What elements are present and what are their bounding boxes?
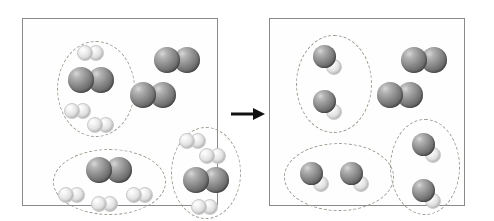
light-diatomic-molecule	[199, 148, 224, 162]
light-diatomic-molecule	[179, 133, 204, 147]
dark-atom	[183, 167, 209, 193]
light-diatomic-molecule	[87, 117, 112, 131]
reactant-box	[22, 18, 218, 206]
light-atom	[199, 148, 215, 164]
leftover-reactant-1	[401, 47, 447, 73]
dark-diatomic-molecule	[68, 67, 114, 93]
product-molecule	[340, 162, 370, 192]
light-atom	[191, 199, 207, 215]
product-molecule	[412, 179, 442, 209]
diagram-stage	[0, 0, 494, 221]
light-atom	[126, 187, 142, 203]
light-atom	[58, 187, 74, 203]
dark-atom	[68, 67, 94, 93]
dark-atom	[412, 179, 435, 202]
dark-diatomic-molecule	[86, 157, 132, 183]
dark-atom	[313, 90, 336, 113]
dark-atom	[412, 133, 435, 156]
light-atom	[179, 133, 195, 149]
light-atom	[77, 45, 93, 61]
product-molecule	[313, 45, 343, 75]
light-diatomic-molecule	[64, 103, 89, 117]
product-molecule	[313, 90, 343, 120]
light-atom	[91, 196, 107, 212]
dark-atom	[300, 162, 323, 185]
light-diatomic-molecule	[77, 45, 102, 59]
dark-atom	[340, 162, 363, 185]
light-diatomic-molecule	[191, 199, 216, 213]
reaction-arrow	[231, 106, 265, 118]
light-diatomic-molecule	[91, 196, 116, 210]
dark-atom	[377, 82, 403, 108]
product-molecule	[300, 162, 330, 192]
dark-atom	[401, 47, 427, 73]
dark-atom	[86, 157, 112, 183]
light-diatomic-molecule	[126, 187, 151, 201]
light-diatomic-molecule	[58, 187, 83, 201]
light-atom	[64, 103, 80, 119]
dark-diatomic-molecule	[183, 167, 229, 193]
leftover-reactant-2	[377, 82, 423, 108]
excess-reactant-2	[130, 82, 176, 108]
dark-atom	[130, 82, 156, 108]
dark-atom	[313, 45, 336, 68]
excess-reactant-1	[154, 47, 200, 73]
product-molecule	[412, 133, 442, 163]
dark-atom	[154, 47, 180, 73]
product-box	[269, 18, 465, 206]
light-atom	[87, 117, 103, 133]
